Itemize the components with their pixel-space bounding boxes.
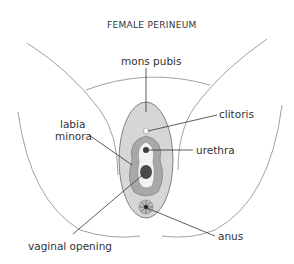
- label-anus: anus: [218, 230, 243, 242]
- mons-contour: [86, 77, 210, 90]
- label-urethra: urethra: [196, 144, 235, 156]
- label-labia-line1: labia: [60, 118, 85, 130]
- anus-leader: [147, 208, 215, 236]
- urethra-shape: [143, 147, 149, 153]
- label-labia-line2: minora: [55, 130, 92, 142]
- clitoris-shape: [144, 128, 149, 134]
- diagram-title: FEMALE PERINEUM: [107, 19, 197, 31]
- label-mons-pubis: mons pubis: [121, 55, 182, 67]
- anus-shape: [139, 200, 153, 214]
- label-clitoris: clitoris: [219, 108, 254, 120]
- label-vaginal-opening: vaginal opening: [28, 240, 112, 252]
- perineum-illustration: [0, 0, 294, 264]
- right-buttock-contour: [162, 105, 282, 237]
- left-thigh-contour: [27, 43, 118, 175]
